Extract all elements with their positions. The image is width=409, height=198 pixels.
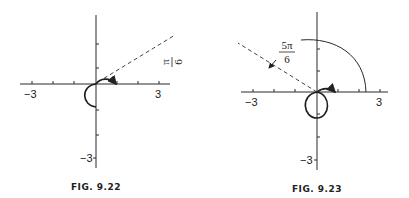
angle-label-5pi-6: 5π 6 (279, 39, 295, 65)
y-neg-label: −3 (300, 154, 313, 166)
figure-caption: FIG. 9.22 (71, 182, 121, 192)
figure-9-22: −3 3 −3 π 6 FIG. 9.22 (20, 15, 184, 192)
y-neg-label: −3 (80, 152, 93, 164)
svg-text:6: 6 (172, 59, 184, 65)
polar-curve (96, 79, 116, 84)
figure-9-23: 5π 6 −3 3 −3 FIG. 9.23 (238, 12, 388, 194)
polar-curve-lower (85, 84, 96, 107)
quarter-arc (301, 40, 366, 92)
figures-canvas: −3 3 −3 π 6 FIG. 9.22 (0, 0, 409, 198)
figure-caption: FIG. 9.23 (292, 184, 342, 194)
polar-loop (305, 92, 327, 118)
angle-ray-pi-6 (98, 35, 175, 82)
label-pointer-arrow (269, 60, 276, 68)
angle-label-pi-6: π 6 (159, 57, 184, 67)
x-neg-label: −3 (245, 96, 258, 108)
polar-curve (317, 89, 335, 92)
x-pos-label: 3 (376, 96, 382, 108)
angle-ray-5pi-6 (238, 43, 317, 92)
x-pos-label: 3 (155, 88, 161, 100)
x-neg-label: −3 (24, 88, 37, 100)
svg-text:5π: 5π (281, 39, 293, 51)
svg-text:6: 6 (284, 53, 290, 65)
svg-text:π: π (159, 59, 171, 65)
